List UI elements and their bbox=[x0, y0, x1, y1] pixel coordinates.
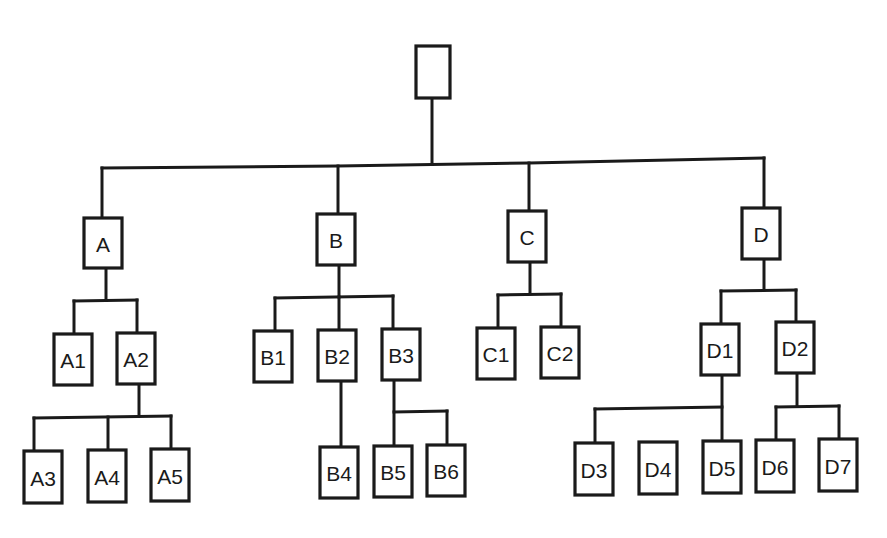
node-d5: D5 bbox=[703, 441, 741, 493]
connector-D2-bar bbox=[776, 406, 839, 407]
tree-nodes: ABCDA1A2B1B2B3C1C2D1D2A3A4A5B4B5B6D3D4D5… bbox=[24, 46, 857, 503]
node-a: A bbox=[84, 218, 122, 268]
node-label: C bbox=[519, 226, 534, 249]
connector-A-bar bbox=[74, 300, 137, 301]
connector-C-bar bbox=[498, 294, 561, 295]
node-b4: B4 bbox=[320, 447, 358, 498]
node-label: A4 bbox=[94, 466, 120, 489]
node-label: C1 bbox=[483, 343, 510, 366]
node-label: D3 bbox=[581, 459, 608, 482]
node-b5: B5 bbox=[374, 446, 412, 497]
node-a3: A3 bbox=[24, 451, 62, 503]
node-label: C2 bbox=[547, 342, 574, 365]
node-label: A3 bbox=[30, 467, 56, 490]
node-b2: B2 bbox=[318, 330, 356, 381]
node-a5: A5 bbox=[151, 449, 189, 501]
connector-B3-bar bbox=[394, 411, 447, 412]
node-b3: B3 bbox=[382, 329, 420, 380]
node-a2: A2 bbox=[117, 333, 155, 384]
node-a4: A4 bbox=[88, 450, 126, 502]
connector-D-bar bbox=[721, 290, 796, 291]
node-d6: D6 bbox=[756, 440, 794, 492]
connector-lines bbox=[34, 98, 839, 451]
node-d7: D7 bbox=[819, 439, 857, 491]
node-d2: D2 bbox=[776, 322, 814, 373]
node-label: A5 bbox=[157, 465, 183, 488]
node-d4: D4 bbox=[639, 442, 677, 494]
node-d3: D3 bbox=[575, 443, 613, 495]
tree-diagram: ABCDA1A2B1B2B3C1C2D1D2A3A4A5B4B5B6D3D4D5… bbox=[0, 0, 887, 538]
node-c2: C2 bbox=[541, 327, 579, 378]
node-label: A bbox=[96, 233, 110, 256]
node-b: B bbox=[317, 214, 355, 265]
node-c: C bbox=[508, 211, 546, 262]
node-b1: B1 bbox=[254, 331, 292, 382]
node-label: B6 bbox=[433, 460, 459, 483]
node-label: B4 bbox=[326, 462, 352, 485]
connector-B-bar bbox=[275, 296, 393, 298]
node-a1: A1 bbox=[54, 334, 92, 385]
node-label: D5 bbox=[709, 457, 736, 480]
node-label: D4 bbox=[645, 458, 672, 481]
node-box bbox=[416, 46, 450, 98]
node-d1: D1 bbox=[701, 324, 739, 375]
node-label: D6 bbox=[762, 456, 789, 479]
node-label: A2 bbox=[123, 348, 149, 371]
node-label: A1 bbox=[60, 349, 86, 372]
node-label: D7 bbox=[825, 455, 852, 478]
node-label: D2 bbox=[782, 337, 809, 360]
node-label: B5 bbox=[380, 461, 406, 484]
node-c1: C1 bbox=[477, 328, 515, 379]
connector-A2-bar bbox=[34, 416, 171, 418]
node-label: D bbox=[753, 223, 768, 246]
node-b6: B6 bbox=[427, 445, 465, 496]
node-label: B1 bbox=[260, 346, 286, 369]
node-label: B2 bbox=[324, 345, 350, 368]
node-label: D1 bbox=[707, 339, 734, 362]
connector-D1-bar bbox=[595, 407, 722, 409]
node-label: B bbox=[329, 229, 343, 252]
node-label: B3 bbox=[388, 344, 414, 367]
node-d: D bbox=[742, 208, 780, 259]
node-root bbox=[416, 46, 450, 98]
